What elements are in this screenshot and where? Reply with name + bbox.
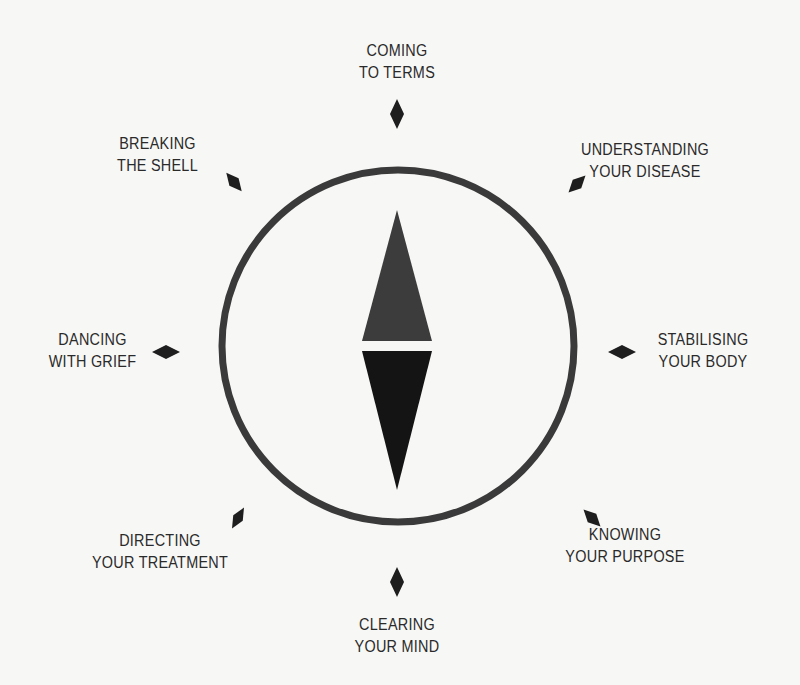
label-line1: Breaking — [106, 133, 210, 155]
compass-diagram: Coming to Terms Understanding Your Disea… — [0, 0, 800, 685]
label-stabilising-your-body: Stabilising Your Body — [649, 329, 757, 373]
label-line2: Your Mind — [343, 636, 451, 658]
label-understanding-your-disease: Understanding Your Disease — [573, 139, 717, 183]
needle-north-icon — [362, 210, 432, 341]
marker-sw-icon — [227, 505, 249, 531]
marker-e-icon — [608, 345, 636, 359]
label-line1: Stabilising — [649, 329, 757, 351]
label-line2: the Shell — [106, 155, 210, 177]
label-line1: Clearing — [343, 614, 451, 636]
label-coming-to-terms: Coming to Terms — [343, 40, 451, 84]
label-line2: with Grief — [41, 351, 145, 373]
needle-south-icon — [362, 351, 432, 490]
label-breaking-the-shell: Breaking the Shell — [106, 133, 210, 177]
label-line2: Your Treatment — [84, 552, 237, 574]
label-knowing-your-purpose: Knowing Your Purpose — [558, 524, 693, 568]
label-line1: Directing — [84, 530, 237, 552]
label-line2: Your Body — [649, 351, 757, 373]
label-directing-your-treatment: Directing Your Treatment — [84, 530, 237, 574]
label-dancing-with-grief: Dancing with Grief — [41, 329, 145, 373]
marker-nw-icon — [222, 169, 247, 195]
label-line2: Your Purpose — [558, 546, 693, 568]
marker-w-icon — [152, 345, 180, 359]
label-line1: Knowing — [558, 524, 693, 546]
label-line2: to Terms — [343, 62, 451, 84]
label-line2: Your Disease — [573, 161, 717, 183]
marker-n-icon — [390, 99, 404, 129]
label-line1: Dancing — [41, 329, 145, 351]
label-clearing-your-mind: Clearing Your Mind — [343, 614, 451, 658]
marker-s-icon — [390, 567, 404, 597]
label-line1: Understanding — [573, 139, 717, 161]
label-line1: Coming — [343, 40, 451, 62]
